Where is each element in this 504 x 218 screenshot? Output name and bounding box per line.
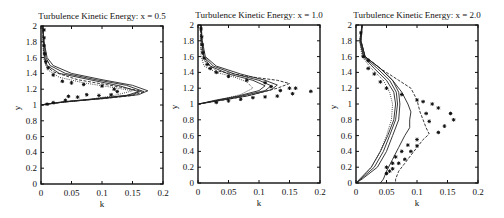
- x-tick-label: 0.2: [472, 187, 483, 197]
- y-tick-label: 0.8: [341, 115, 353, 125]
- series-group: [42, 26, 148, 106]
- data-marker: [51, 73, 55, 77]
- data-marker: [309, 90, 313, 94]
- series-line: [42, 26, 145, 105]
- data-marker: [208, 67, 212, 71]
- data-marker: [42, 44, 46, 48]
- panel-title: Turbulence Kinetic Energy: x = 1.0: [195, 10, 323, 20]
- data-marker: [215, 101, 219, 105]
- data-marker: [42, 28, 46, 32]
- y-tick-label: 1.6: [183, 52, 195, 62]
- data-marker: [415, 138, 419, 142]
- data-marker: [394, 155, 398, 159]
- y-tick-label: 0.8: [183, 115, 195, 125]
- data-marker: [415, 144, 419, 148]
- data-marker: [115, 90, 119, 94]
- x-tick-label: 0.1: [411, 187, 422, 197]
- data-marker: [263, 95, 267, 99]
- data-marker: [437, 131, 441, 135]
- y-tick-label: 1: [348, 99, 353, 109]
- data-marker: [359, 31, 363, 35]
- y-tick-label: 0.2: [26, 163, 37, 173]
- data-marker: [109, 93, 113, 97]
- data-marker: [400, 150, 404, 154]
- plot-frame: [41, 26, 163, 184]
- data-marker: [76, 95, 80, 99]
- data-marker: [200, 43, 204, 47]
- data-marker: [385, 165, 389, 169]
- data-marker: [215, 71, 219, 75]
- data-marker: [112, 87, 116, 91]
- data-marker: [437, 106, 441, 110]
- x-axis-label: k: [415, 198, 420, 208]
- data-marker: [406, 143, 410, 147]
- y-tick-label: 0: [33, 179, 38, 189]
- data-marker: [385, 172, 389, 176]
- data-marker: [201, 51, 205, 55]
- y-axis-label: y: [12, 105, 22, 110]
- series-line: [42, 26, 142, 105]
- data-marker: [64, 98, 68, 102]
- y-tick-label: 1.2: [341, 83, 352, 93]
- y-tick-label: 1: [33, 100, 38, 110]
- data-marker: [251, 96, 255, 100]
- data-marker: [379, 80, 383, 84]
- data-marker: [227, 99, 231, 103]
- data-marker: [427, 120, 431, 124]
- y-tick-label: 1: [190, 99, 195, 109]
- y-tick-label: 2: [190, 20, 195, 30]
- y-tick-label: 0.6: [183, 131, 195, 141]
- data-marker: [263, 81, 267, 85]
- y-tick-label: 2: [33, 21, 38, 31]
- data-marker: [366, 67, 370, 71]
- panel-x-1.0: Turbulence Kinetic Energy: x = 1.0 k y 0…: [169, 10, 326, 208]
- data-marker: [385, 86, 389, 90]
- y-tick-label: 1.4: [183, 67, 195, 77]
- x-tick-label: 0: [196, 187, 201, 197]
- series-group: [199, 25, 313, 104]
- data-marker: [47, 66, 51, 70]
- x-tick-label: 0.1: [96, 188, 107, 198]
- data-marker: [366, 59, 370, 63]
- data-marker: [276, 94, 280, 98]
- y-tick-label: 0: [348, 178, 353, 188]
- data-marker: [373, 72, 377, 76]
- data-marker: [45, 102, 49, 106]
- y-tick-label: 1.2: [26, 84, 37, 94]
- data-marker: [227, 75, 231, 79]
- y-tick-label: 1.8: [26, 37, 38, 47]
- data-marker: [100, 84, 104, 88]
- data-marker: [391, 167, 395, 171]
- series-line: [42, 26, 139, 105]
- y-tick-label: 0.2: [341, 162, 352, 172]
- data-marker: [61, 80, 65, 84]
- data-marker: [388, 169, 392, 173]
- x-axis-label: k: [257, 198, 262, 208]
- data-marker: [43, 52, 47, 56]
- y-tick-label: 0.6: [26, 132, 38, 142]
- data-marker: [269, 85, 273, 89]
- data-marker: [449, 112, 453, 116]
- data-marker: [397, 161, 401, 165]
- plot-frame: [356, 25, 478, 183]
- series-group: [356, 25, 455, 183]
- figure: Turbulence Kinetic Energy: x = 0.5 k y 0…: [0, 0, 504, 218]
- data-marker: [424, 112, 428, 116]
- y-tick-label: 1.8: [183, 36, 195, 46]
- x-tick-label: 0.15: [282, 187, 298, 197]
- data-marker: [421, 100, 425, 104]
- data-marker: [85, 93, 89, 97]
- data-marker: [294, 86, 298, 90]
- data-marker: [403, 158, 407, 162]
- y-tick-label: 1.8: [341, 36, 353, 46]
- data-marker: [205, 63, 209, 67]
- y-tick-label: 0.4: [183, 146, 195, 156]
- x-tick-label: 0.05: [221, 187, 237, 197]
- series-line: [42, 26, 148, 105]
- data-marker: [291, 92, 295, 96]
- data-marker: [279, 89, 283, 93]
- y-tick-label: 1.2: [183, 83, 194, 93]
- y-tick-label: 1.4: [26, 68, 38, 78]
- x-tick-label: 0.05: [379, 187, 395, 197]
- data-marker: [391, 161, 395, 165]
